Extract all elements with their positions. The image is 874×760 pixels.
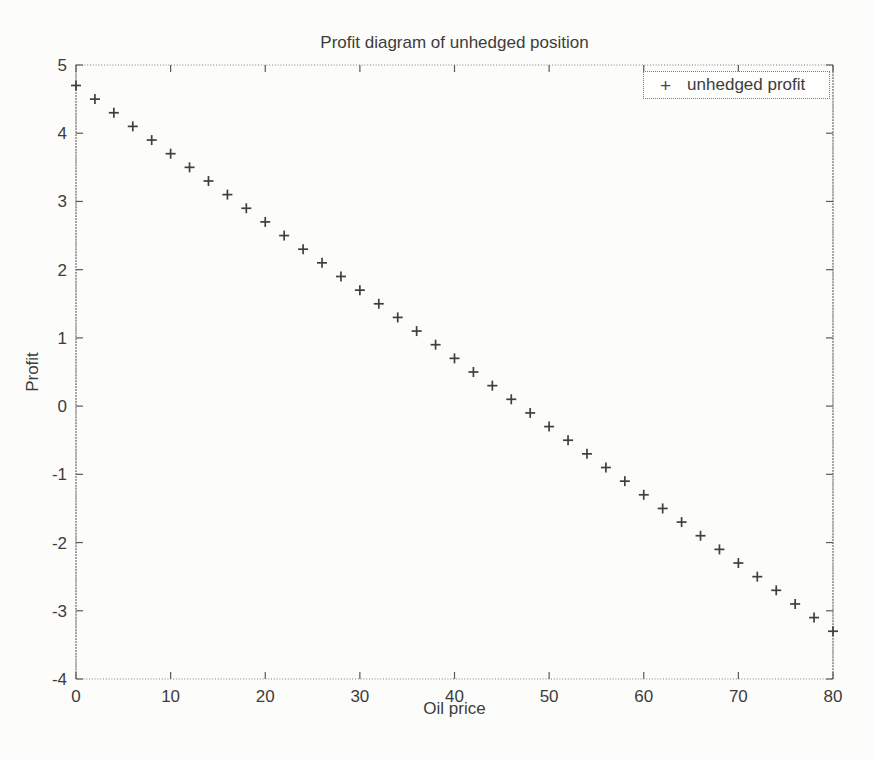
legend-entry-label: unhedged profit (687, 75, 805, 95)
y-tick-label: 5 (58, 56, 67, 75)
y-tick-label: -1 (52, 465, 67, 484)
y-tick-label: -2 (52, 534, 67, 553)
y-tick-label: -3 (52, 602, 67, 621)
plot-box (76, 65, 833, 679)
figure: 01020304050607080-4-3-2-1012345 Profit d… (0, 0, 874, 760)
y-tick-label: 2 (58, 261, 67, 280)
x-axis-label: Oil price (76, 699, 833, 719)
y-tick-label: -4 (52, 670, 67, 689)
y-tick-label: 4 (58, 124, 67, 143)
plot-canvas: 01020304050607080-4-3-2-1012345 (0, 0, 874, 760)
y-tick-label: 0 (58, 397, 67, 416)
y-tick-label: 1 (58, 329, 67, 348)
plus-marker-icon: + (660, 76, 671, 95)
y-axis-label: Profit (23, 322, 43, 422)
chart-title: Profit diagram of unhedged position (76, 33, 833, 53)
legend: + unhedged profit (643, 71, 830, 99)
y-tick-label: 3 (58, 192, 67, 211)
